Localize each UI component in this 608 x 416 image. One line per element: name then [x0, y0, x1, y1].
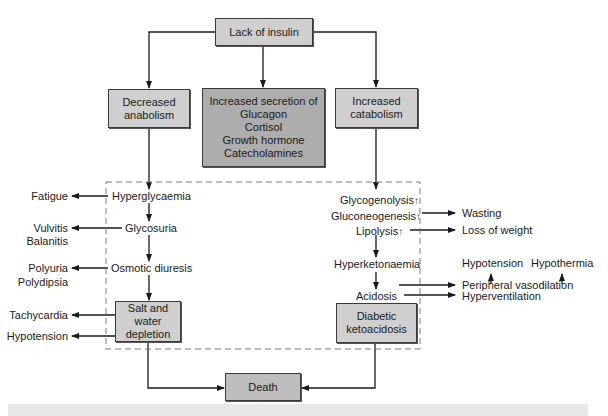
increased-secretion-line1: Increased secretion of: [209, 95, 317, 108]
vulvitis-label: Vulvitis: [34, 222, 68, 235]
gluconeogenesis-label: Gluconeogenesis↑: [331, 210, 421, 223]
death-box: Death: [225, 373, 301, 401]
increase-arrow-icon: ↑: [398, 226, 403, 237]
glucagon-label: Glucagon: [240, 108, 287, 121]
loss-of-weight-label: Loss of weight: [462, 224, 532, 237]
glycogenolysis-label: Glycogenolysis↑: [340, 194, 419, 207]
lack-of-insulin-box: Lack of insulin: [215, 18, 313, 46]
decreased-anabolism-line1: Decreased: [122, 96, 175, 109]
dka-line1: Diabetic: [357, 310, 397, 323]
increased-catabolism-line1: Increased: [352, 95, 400, 108]
hypotension-left-label: Hypotension: [7, 330, 68, 343]
footer-band: [8, 404, 588, 416]
polyuria-label: Polyuria: [28, 262, 68, 275]
lipolysis-label: Lipolysis↑: [356, 225, 403, 238]
hyperventilation-label: Hyperventilation: [462, 290, 541, 303]
hyperketonaemia-label: Hyperketonaemia: [334, 258, 420, 271]
increased-catabolism-box: Increased catabolism: [335, 88, 418, 128]
dka-line2: ketoacidosis: [346, 323, 407, 336]
growth-hormone-label: Growth hormone: [223, 134, 305, 147]
connector-lines: [0, 0, 608, 416]
balanitis-label: Balanitis: [26, 235, 68, 248]
catecholamines-label: Catecholamines: [224, 147, 303, 160]
fatigue-label: Fatigue: [31, 190, 68, 203]
salt-water-line2: water: [135, 315, 162, 328]
decreased-anabolism-line2: anabolism: [124, 109, 174, 122]
hypothermia-label: Hypothermia: [531, 257, 593, 270]
salt-water-line3: depletion: [126, 328, 171, 341]
hyperglycaemia-label: Hyperglycaemia: [110, 190, 193, 203]
increased-secretion-box: Increased secretion of Glucagon Cortisol…: [202, 88, 325, 167]
wasting-label: Wasting: [462, 207, 501, 220]
acidosis-label: Acidosis: [356, 290, 397, 303]
decreased-anabolism-box: Decreased anabolism: [108, 89, 190, 128]
increased-catabolism-line2: catabolism: [350, 108, 403, 121]
cortisol-label: Cortisol: [245, 121, 282, 134]
increase-arrow-icon: ↑: [414, 195, 419, 206]
polydipsia-label: Polydipsia: [18, 276, 68, 289]
glycosuria-label: Glycosuria: [123, 222, 179, 235]
lack-of-insulin-label: Lack of insulin: [229, 26, 299, 39]
hypotension-right-label: Hypotension: [462, 257, 523, 270]
tachycardia-label: Tachycardia: [9, 309, 68, 322]
osmotic-diuresis-label: Osmotic diuresis: [109, 262, 194, 275]
salt-water-line1: Salt and: [128, 302, 168, 315]
increase-arrow-icon: ↑: [416, 211, 421, 222]
diabetic-ketoacidosis-box: Diabetic ketoacidosis: [336, 303, 417, 343]
salt-water-depletion-box: Salt and water depletion: [115, 301, 181, 342]
death-label: Death: [248, 381, 277, 394]
